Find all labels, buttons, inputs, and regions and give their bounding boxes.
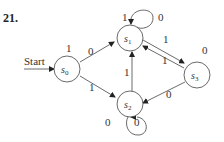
- edge-s0-s1: [80, 42, 114, 62]
- edge-s3-s2: [143, 82, 185, 103]
- label-s0-top: 1: [66, 42, 72, 54]
- label-s3-top: 0: [202, 44, 208, 56]
- state-s0: s0: [54, 56, 80, 82]
- label-s2-loop-right: 0: [134, 116, 140, 128]
- state-s3: s3: [184, 62, 210, 88]
- label-s0-s1: 0: [88, 45, 94, 57]
- label-s3-s2: 0: [166, 88, 172, 100]
- state-s2: s2: [117, 91, 143, 117]
- label-s1-loop-right: 0: [158, 11, 164, 23]
- loop-s1-arrowhead: [128, 19, 134, 25]
- label-s2-loop-left: 0: [105, 116, 111, 128]
- state-diagram: 21. Start s0 s1 s2 s3 1 0 1 1 0 1 1 0 1 …: [0, 0, 224, 142]
- label-s3-s1: 1: [162, 54, 168, 66]
- state-s1: s1: [117, 25, 143, 51]
- edge-s0-s2: [80, 76, 115, 97]
- start-label: Start: [24, 55, 45, 67]
- problem-number: 21.: [3, 11, 18, 25]
- label-s1-loop-left: 1: [122, 11, 128, 23]
- label-s2-s1: 1: [124, 66, 130, 78]
- label-s1-s3: 1: [163, 33, 169, 45]
- label-s0-s2: 1: [89, 81, 95, 93]
